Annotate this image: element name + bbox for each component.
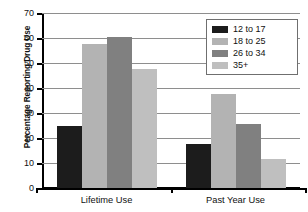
legend-item: 35+ bbox=[212, 59, 293, 71]
y-tick-label-50: 50 bbox=[8, 58, 34, 68]
x-tick-label-2: Past Year Use bbox=[206, 195, 265, 205]
y-tick-label-60: 60 bbox=[8, 33, 34, 43]
bar bbox=[132, 69, 157, 188]
bar-chart: Percentage Reporting Drug Use 0102030405… bbox=[0, 0, 308, 212]
bar bbox=[82, 44, 107, 188]
bar bbox=[186, 144, 211, 188]
legend-label-26-to-34: 26 to 34 bbox=[233, 48, 266, 58]
y-tick-label-0: 0 bbox=[8, 183, 34, 193]
y-tick-mark-30 bbox=[37, 113, 42, 115]
y-tick-mark-70 bbox=[37, 13, 42, 15]
y-tick-label-70: 70 bbox=[8, 8, 34, 18]
y-tick-label-30: 30 bbox=[8, 108, 34, 118]
bar bbox=[107, 37, 132, 188]
legend-item: 12 to 17 bbox=[212, 23, 293, 35]
gridline-70 bbox=[42, 13, 300, 14]
legend-label-12-to-17: 12 to 17 bbox=[233, 24, 266, 34]
y-tick-mark-10 bbox=[37, 163, 42, 165]
legend-swatch-35-plus bbox=[212, 62, 228, 69]
legend-label-18-to-25: 18 to 25 bbox=[233, 36, 266, 46]
y-tick-label-40: 40 bbox=[8, 83, 34, 93]
legend-label-35-plus: 35+ bbox=[233, 60, 248, 70]
y-tick-mark-40 bbox=[37, 88, 42, 90]
bar bbox=[261, 159, 286, 188]
legend-swatch-26-to-34 bbox=[212, 50, 228, 57]
legend-item: 18 to 25 bbox=[212, 35, 293, 47]
legend-swatch-12-to-17 bbox=[212, 26, 228, 33]
legend-swatch-18-to-25 bbox=[212, 38, 228, 45]
bar bbox=[236, 124, 261, 188]
y-tick-mark-20 bbox=[37, 138, 42, 140]
legend-item: 26 to 34 bbox=[212, 47, 293, 59]
y-tick-mark-0 bbox=[37, 188, 42, 190]
chart-legend: 12 to 17 18 to 25 26 to 34 35+ bbox=[206, 19, 298, 75]
bar bbox=[211, 94, 236, 188]
x-axis-right-tick bbox=[305, 188, 307, 193]
x-tick-label-1: Lifetime Use bbox=[81, 195, 133, 205]
x-axis-mid-tick bbox=[171, 188, 173, 193]
y-tick-mark-50 bbox=[37, 63, 42, 65]
bar bbox=[57, 126, 82, 189]
y-tick-label-10: 10 bbox=[8, 158, 34, 168]
y-tick-label-20: 20 bbox=[8, 133, 34, 143]
y-tick-mark-60 bbox=[37, 38, 42, 40]
